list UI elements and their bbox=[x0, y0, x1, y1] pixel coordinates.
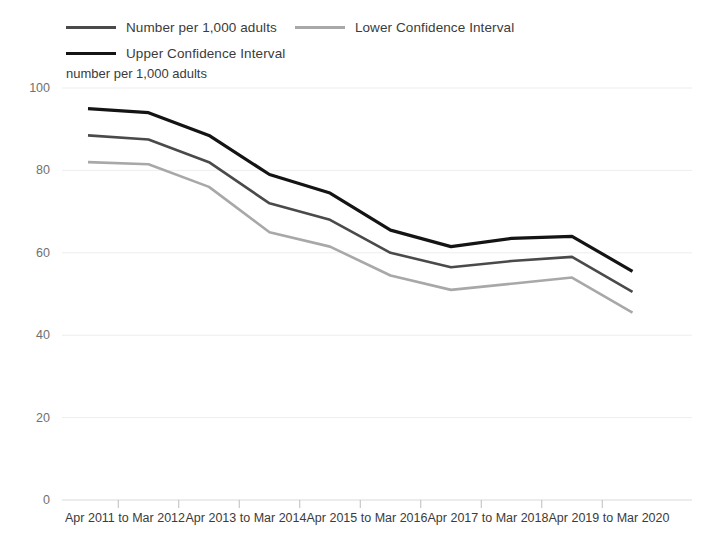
y-tick-label-40: 40 bbox=[36, 328, 50, 342]
x-tick-label-2: Apr 2013 to Mar 2014 bbox=[186, 511, 307, 525]
x-tick-label-4: Apr 2015 to Mar 2016 bbox=[307, 511, 428, 525]
y-tick-label-0: 0 bbox=[43, 493, 50, 507]
chart-svg: 020406080100 Apr 2011 to Mar 2012Apr 201… bbox=[0, 0, 709, 554]
x-tick-label-0: Apr 2011 to Mar 2012 bbox=[65, 511, 185, 525]
x-tick-label-8: Apr 2019 to Mar 2020 bbox=[549, 511, 670, 525]
y-tick-label-100: 100 bbox=[29, 81, 50, 95]
line-chart: number per 1,000 adults 020406080100 Apr… bbox=[0, 0, 709, 554]
y-axis-ticks: 020406080100 bbox=[29, 81, 50, 507]
y-tick-label-60: 60 bbox=[36, 246, 50, 260]
series-line-upper-confidence-interval bbox=[88, 109, 633, 272]
y-tick-label-80: 80 bbox=[36, 163, 50, 177]
y-tick-label-20: 20 bbox=[36, 411, 50, 425]
x-tick-label-6: Apr 2017 to Mar 2018 bbox=[428, 511, 549, 525]
gridlines bbox=[62, 88, 692, 500]
data-series-group bbox=[88, 109, 633, 313]
x-axis-ticks: Apr 2011 to Mar 2012Apr 2013 to Mar 2014… bbox=[65, 500, 669, 525]
series-line-number-per-1-000-adults bbox=[88, 135, 633, 292]
